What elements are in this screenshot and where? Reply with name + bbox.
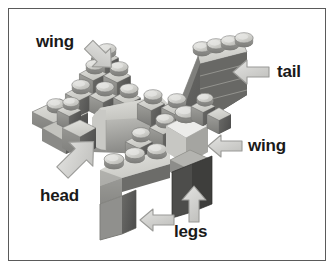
- wing-right-arrow: [206, 133, 244, 159]
- figure-page: wing tail wing head legs: [0, 0, 335, 270]
- label-head: head: [40, 187, 79, 204]
- label-legs: legs: [174, 223, 207, 240]
- wing-top-left-arrow: [82, 40, 118, 72]
- label-wing-top-left: wing: [36, 33, 74, 50]
- legs-up-arrow: [180, 184, 208, 224]
- label-wing-right: wing: [248, 137, 286, 154]
- label-tail: tail: [277, 63, 301, 80]
- tail-arrow: [231, 58, 271, 86]
- legs-left-arrow: [138, 207, 176, 233]
- head-arrow: [54, 130, 102, 184]
